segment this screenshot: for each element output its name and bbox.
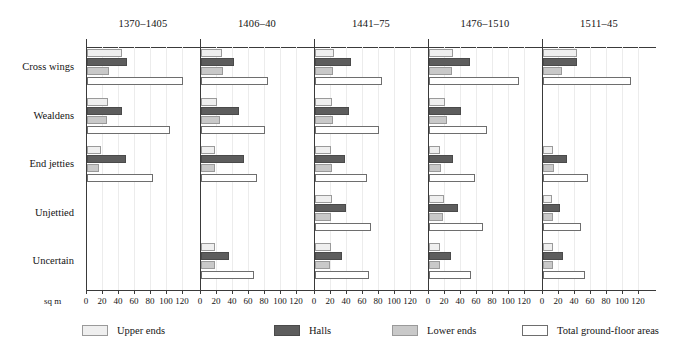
bar-chart: 1370–14051406–401441–751476–15101511–45 … — [0, 0, 675, 357]
bar-total — [543, 174, 588, 182]
x-axis-tick-label: 80 — [374, 296, 383, 306]
bar-halls — [201, 107, 239, 115]
legend-item-upper[interactable]: Upper ends — [82, 325, 165, 336]
bar-halls — [87, 107, 122, 115]
bar-lower — [429, 116, 447, 124]
bar-upper — [315, 146, 331, 154]
bar-upper — [543, 195, 552, 203]
bar-upper — [201, 98, 217, 106]
panel-title-3: 1441–75 — [314, 18, 428, 34]
bar-lower — [315, 67, 333, 75]
bar-lower — [429, 213, 443, 221]
panel-title-1: 1370–1405 — [86, 18, 200, 34]
bar-group — [86, 241, 200, 290]
x-axis-tick-label: 120 — [175, 296, 189, 306]
bar-group — [200, 144, 314, 193]
x-axis-line — [86, 290, 656, 291]
bar-total — [543, 271, 585, 279]
bar-group — [542, 144, 656, 193]
x-axis-tick — [280, 290, 281, 294]
bar-halls — [201, 58, 234, 66]
bar-lower — [543, 67, 562, 75]
x-axis-tick-label: 20 — [326, 296, 335, 306]
bar-group — [200, 241, 314, 290]
bar-group — [200, 96, 314, 145]
bar-lower — [315, 116, 333, 124]
x-axis-tick-label: 120 — [517, 296, 531, 306]
bar-upper — [315, 195, 332, 203]
legend-label: Total ground-floor areas — [557, 325, 659, 336]
x-axis-tick-label: 60 — [586, 296, 595, 306]
bar-upper — [543, 243, 553, 251]
legend-label: Halls — [309, 325, 331, 336]
bar-group — [200, 47, 314, 96]
bar-total — [201, 271, 254, 279]
category-label-unjettied: Unjettied — [35, 207, 74, 218]
x-axis-tick-label: 120 — [289, 296, 303, 306]
bar-upper — [429, 49, 453, 57]
bar-upper — [315, 243, 331, 251]
x-axis-tick — [150, 290, 151, 294]
x-axis-tick-label: 40 — [456, 296, 465, 306]
x-axis-tick — [558, 290, 559, 294]
x-axis-tick-label: 60 — [358, 296, 367, 306]
legend-label: Lower ends — [427, 325, 476, 336]
bar-total — [201, 174, 257, 182]
bar-total — [87, 174, 153, 182]
bar-lower — [201, 164, 215, 172]
bar-total — [315, 126, 379, 134]
x-axis-tick-label: 100 — [387, 296, 401, 306]
x-axis-tick — [330, 290, 331, 294]
x-axis-tick — [574, 290, 575, 294]
x-axis-tick — [378, 290, 379, 294]
legend-item-total[interactable]: Total ground-floor areas — [522, 325, 659, 336]
bar-upper — [315, 98, 332, 106]
bar-halls — [315, 107, 349, 115]
bar-upper — [315, 49, 334, 57]
x-axis-tick-label: 60 — [244, 296, 253, 306]
bar-halls — [315, 252, 342, 260]
bar-lower — [429, 164, 441, 172]
bar-group — [428, 144, 542, 193]
legend-item-lower[interactable]: Lower ends — [392, 325, 476, 336]
bar-halls — [543, 155, 567, 163]
x-axis-tick-label: 40 — [570, 296, 579, 306]
x-axis-tick — [166, 290, 167, 294]
bar-group — [542, 47, 656, 96]
x-axis-tick — [638, 290, 639, 294]
bar-lower — [315, 213, 331, 221]
bar-group — [86, 193, 200, 242]
bar-lower — [429, 261, 440, 269]
panel-1 — [86, 47, 200, 290]
bar-upper — [429, 98, 445, 106]
x-axis-tick — [394, 290, 395, 294]
bar-halls — [429, 58, 470, 66]
bar-total — [315, 77, 382, 85]
bar-group — [542, 193, 656, 242]
x-axis-tick — [460, 290, 461, 294]
bar-group — [86, 47, 200, 96]
bar-total — [429, 174, 475, 182]
bar-upper — [429, 146, 440, 154]
bar-halls — [429, 204, 458, 212]
x-axis-tick — [410, 290, 411, 294]
x-axis-tick-label: 120 — [403, 296, 417, 306]
bar-group — [428, 96, 542, 145]
bar-group — [86, 144, 200, 193]
x-axis-tick — [118, 290, 119, 294]
panel-title-4: 1476–1510 — [428, 18, 542, 34]
bar-upper — [429, 195, 444, 203]
bar-upper — [87, 146, 101, 154]
x-axis-tick — [492, 290, 493, 294]
x-axis-tick — [524, 290, 525, 294]
x-axis-tick-label: 100 — [273, 296, 287, 306]
legend-item-halls[interactable]: Halls — [274, 325, 331, 336]
x-axis-tick — [232, 290, 233, 294]
chart-legend: Upper endsHallsLower endsTotal ground-fl… — [82, 320, 652, 340]
bar-lower — [201, 67, 223, 75]
bar-upper — [429, 243, 440, 251]
bar-total — [201, 126, 265, 134]
panel-5 — [542, 47, 656, 290]
bar-lower — [315, 164, 332, 172]
panel-title-row: 1370–14051406–401441–751476–15101511–45 — [86, 18, 656, 34]
